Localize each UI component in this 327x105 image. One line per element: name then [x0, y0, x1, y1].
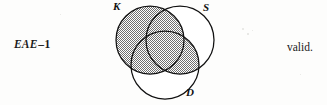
- syllogism-figure: EAE–1: [0, 0, 327, 105]
- venn-diagram: K S D: [110, 0, 225, 105]
- scan-speckle: [60, 14, 61, 15]
- set-label-s: S: [203, 1, 209, 13]
- venn-diagram-svg: [110, 0, 225, 105]
- scan-speckle: [252, 30, 253, 31]
- scan-speckle: [242, 28, 244, 30]
- syllogism-figure-number: 1: [45, 38, 51, 50]
- syllogism-form-label: EAE–1: [14, 38, 51, 50]
- validity-verdict: valid.: [287, 41, 313, 53]
- syllogism-dash: –: [38, 38, 45, 50]
- set-label-d: D: [186, 86, 194, 98]
- set-label-k: K: [113, 0, 121, 12]
- syllogism-mood: EAE: [14, 38, 38, 50]
- scan-speckle: [247, 33, 249, 35]
- scan-speckle: [300, 74, 301, 75]
